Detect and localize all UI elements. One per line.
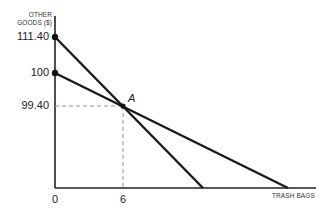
point-a-label: A [128, 92, 135, 104]
x-axis-title: TRASH BAGS [272, 192, 315, 199]
y-axis-title-line2: GOODS ($) [2, 19, 52, 27]
y-tick-100: 100 [3, 66, 49, 78]
budget-line-steep [55, 37, 203, 188]
chart-canvas [0, 0, 332, 211]
y-axis-title-line1: OTHER [2, 11, 52, 19]
y-tick-99-40: 99.40 [3, 99, 49, 111]
budget-line-flat [55, 73, 288, 188]
x-tick-6: 6 [120, 193, 126, 205]
intercept-dot-111 [52, 34, 58, 40]
intercept-dot-100 [52, 70, 58, 76]
x-tick-0: 0 [52, 193, 58, 205]
point-a-dot [120, 103, 125, 108]
y-tick-111-40: 111.40 [3, 30, 49, 42]
y-axis-title: OTHER GOODS ($) [2, 11, 52, 27]
